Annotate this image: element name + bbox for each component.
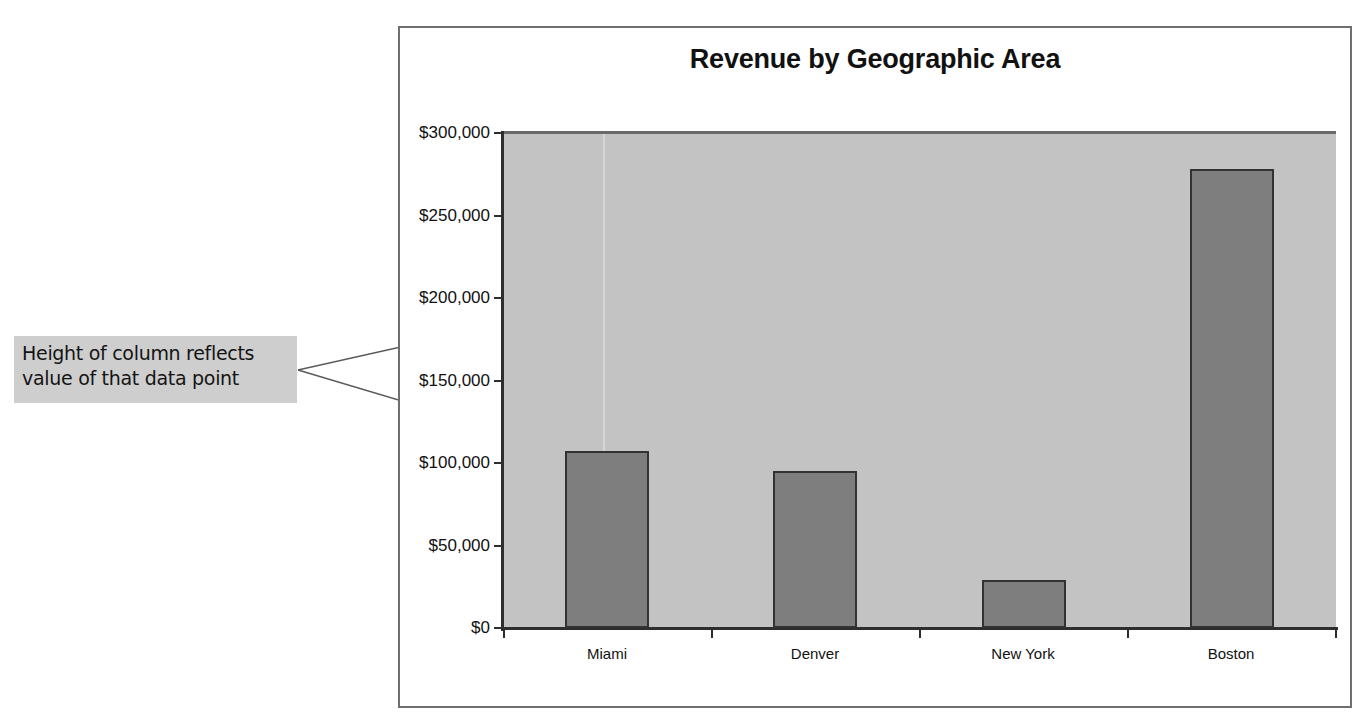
bar-miami[interactable] <box>565 451 649 628</box>
chart-title: Revenue by Geographic Area <box>398 44 1352 75</box>
y-tick-150000 <box>494 380 503 382</box>
y-axis-label-100000: $100,000 <box>360 453 490 473</box>
x-axis-label-boston: Boston <box>1127 645 1335 662</box>
y-tick-0 <box>494 627 503 629</box>
y-axis-label-300000: $300,000 <box>360 123 490 143</box>
x-axis-label-miami: Miami <box>503 645 711 662</box>
annotation-callout-box: Height of column reflects value of that … <box>14 336 297 403</box>
x-tick-1 <box>711 628 713 638</box>
x-axis-label-new-york: New York <box>919 645 1127 662</box>
y-axis-label-150000: $150,000 <box>360 371 490 391</box>
y-tick-250000 <box>494 215 503 217</box>
y-axis-label-0: $0 <box>360 618 490 638</box>
bar-new-york[interactable] <box>982 580 1066 628</box>
bar-boston[interactable] <box>1190 169 1274 628</box>
y-axis-labels: $300,000 $250,000 $200,000 $150,000 $100… <box>352 0 490 726</box>
x-axis-label-denver: Denver <box>711 645 919 662</box>
bar-denver[interactable] <box>773 471 857 628</box>
annotation-line-2: value of that data point <box>22 367 239 389</box>
x-tick-2 <box>919 628 921 638</box>
annotation-callout-text: Height of column reflects value of that … <box>22 341 289 391</box>
y-axis-label-200000: $200,000 <box>360 288 490 308</box>
y-tick-50000 <box>494 545 503 547</box>
x-tick-4 <box>1335 628 1337 638</box>
y-axis-label-50000: $50,000 <box>360 536 490 556</box>
annotation-line-1: Height of column reflects <box>22 342 254 364</box>
y-tick-200000 <box>494 297 503 299</box>
y-tick-300000 <box>494 132 503 134</box>
plot-top-border <box>503 131 1336 134</box>
y-axis-label-250000: $250,000 <box>360 206 490 226</box>
x-tick-3 <box>1127 628 1129 638</box>
x-tick-0 <box>503 628 505 638</box>
y-tick-100000 <box>494 462 503 464</box>
